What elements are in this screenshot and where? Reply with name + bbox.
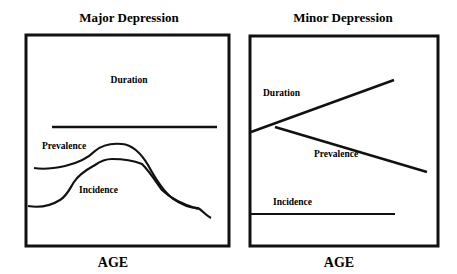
label-prevalence-minor: Prevalence xyxy=(314,149,358,159)
panel-title-major: Major Depression xyxy=(79,10,179,25)
curve-prevalence-major xyxy=(34,144,211,218)
label-duration-major: Duration xyxy=(111,75,149,85)
label-prevalence-major: Prevalence xyxy=(42,141,86,151)
x-axis-label-major: AGE xyxy=(98,255,128,270)
curve-incidence-major xyxy=(28,159,198,209)
panel-title-minor: Minor Depression xyxy=(293,10,393,25)
label-incidence-minor: Incidence xyxy=(273,197,312,207)
label-incidence-major: Incidence xyxy=(79,185,118,195)
label-duration-minor: Duration xyxy=(263,88,301,98)
x-axis-label-minor: AGE xyxy=(324,255,354,270)
depression-diagram: Major Depression Duration Prevalence Inc… xyxy=(0,0,457,274)
